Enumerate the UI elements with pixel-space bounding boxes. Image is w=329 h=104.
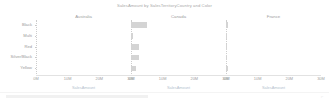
bar-canada-red[interactable] <box>131 44 139 50</box>
bar-row-canada-black[interactable] <box>131 20 226 31</box>
y-axis-label-black: Black <box>22 20 32 31</box>
chart-title: SalesAmount by SalesTerritoryCountry and… <box>0 3 329 8</box>
x-axis-australia: 0M 10M 20M 30M <box>36 75 131 83</box>
x-axis-line <box>131 75 226 76</box>
chart-container: SalesAmount by SalesTerritoryCountry and… <box>0 0 329 104</box>
y-tick-icon <box>35 36 37 37</box>
panel-header-australia: Australia <box>36 13 131 20</box>
x-tick-australia-0: 0M <box>33 76 38 81</box>
x-tick-australia-20: 20M <box>96 76 104 81</box>
y-axis-label-silver-black: Silver/Black <box>11 52 32 63</box>
y-axis-label-multi: Multi <box>23 31 32 42</box>
bar-row-australia-black[interactable] <box>36 20 131 31</box>
x-axis-line <box>226 75 321 76</box>
panel-plot-australia <box>36 20 131 74</box>
panel-header-row: Australia Canada France <box>36 13 321 20</box>
x-axis-title-australia: SalesAmount <box>36 84 131 91</box>
y-axis-label-red: Red <box>24 42 32 53</box>
bar-row-australia-silver-black[interactable] <box>36 52 131 63</box>
x-axis-france: 0M 10M 20M 30M <box>226 75 321 83</box>
y-tick-icon <box>35 68 37 69</box>
facet-panels <box>36 20 321 74</box>
y-tick-icon <box>35 47 37 48</box>
y-axis-label-yellow: Yellow <box>20 63 32 74</box>
bar-france-multi[interactable] <box>226 33 227 39</box>
bar-row-france-yellow[interactable] <box>226 63 321 74</box>
bar-row-canada-yellow[interactable] <box>131 63 226 74</box>
footer-placeholder-bar <box>6 95 148 98</box>
bar-row-france-black[interactable] <box>226 20 321 31</box>
x-axis-title-canada: SalesAmount <box>131 84 226 91</box>
bar-row-france-silver-black[interactable] <box>226 52 321 63</box>
x-tick-france-10: 10M <box>254 76 262 81</box>
bar-canada-yellow[interactable] <box>131 66 136 72</box>
bar-france-red[interactable] <box>226 44 227 50</box>
bar-france-yellow[interactable] <box>226 66 228 72</box>
x-tick-france-0: 0M <box>223 76 228 81</box>
panel-header-canada: Canada <box>131 13 226 20</box>
panel-plot-canada <box>131 20 226 74</box>
x-axis-row: 0M 10M 20M 30M 0M 10M 20M 30M 0M 10M 20M… <box>36 75 321 83</box>
x-tick-australia-10: 10M <box>64 76 72 81</box>
bar-row-canada-red[interactable] <box>131 42 226 53</box>
bar-row-australia-multi[interactable] <box>36 31 131 42</box>
x-tick-canada-10: 10M <box>159 76 167 81</box>
x-axis-title-france: SalesAmount <box>226 84 321 91</box>
bar-france-black[interactable] <box>226 22 228 28</box>
panel-plot-france <box>226 20 321 74</box>
x-axis-canada: 0M 10M 20M 30M <box>131 75 226 83</box>
bar-row-canada-multi[interactable] <box>131 31 226 42</box>
resize-handle-icon[interactable]: ⌐ <box>321 95 325 99</box>
panel-header-france: France <box>226 13 321 20</box>
x-tick-france-30: 30M <box>317 76 325 81</box>
plot-area: Black Multi Red Silver/Black Yellow <box>0 20 329 74</box>
bar-row-france-red[interactable] <box>226 42 321 53</box>
bar-row-canada-silver-black[interactable] <box>131 52 226 63</box>
footer-divider <box>0 92 329 93</box>
bar-canada-silver-black[interactable] <box>131 55 139 61</box>
bar-canada-multi[interactable] <box>131 33 133 39</box>
bar-canada-black[interactable] <box>131 22 147 28</box>
x-axis-title-row: SalesAmount SalesAmount SalesAmount <box>36 84 321 91</box>
y-tick-icon <box>35 25 37 26</box>
bar-row-australia-red[interactable] <box>36 42 131 53</box>
bar-row-australia-yellow[interactable] <box>36 63 131 74</box>
bar-row-france-multi[interactable] <box>226 31 321 42</box>
y-tick-icon <box>35 57 37 58</box>
x-tick-france-20: 20M <box>286 76 294 81</box>
x-axis-line <box>36 75 131 76</box>
x-tick-canada-0: 0M <box>128 76 133 81</box>
x-tick-canada-20: 20M <box>191 76 199 81</box>
y-axis-labels: Black Multi Red Silver/Black Yellow <box>0 20 34 74</box>
bar-france-silver-black[interactable] <box>226 55 227 61</box>
